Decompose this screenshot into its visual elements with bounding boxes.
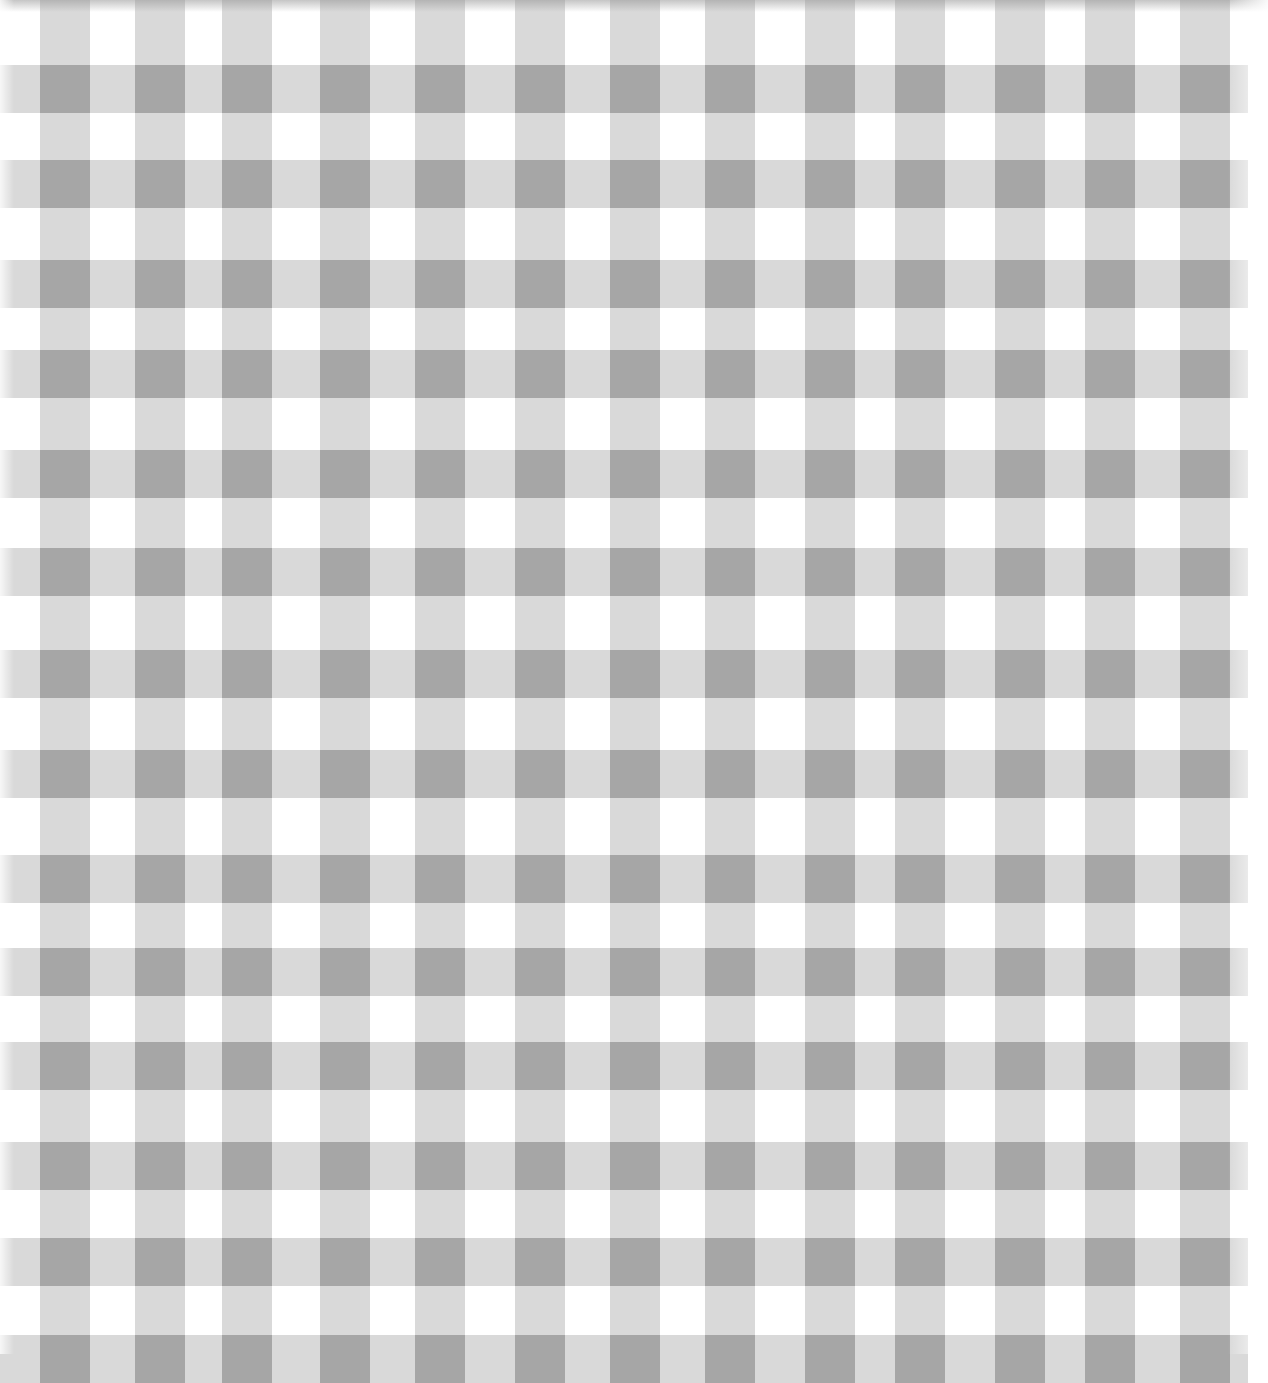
stripe-crossing [705, 650, 755, 698]
top-edge-shadow [0, 0, 1268, 12]
stripe-crossing [320, 260, 370, 308]
stripe-crossing [135, 1238, 185, 1286]
stripe-crossing [40, 948, 90, 996]
stripe-crossing [222, 1335, 272, 1383]
stripe-crossing [1085, 1142, 1135, 1190]
stripe-crossing [135, 450, 185, 498]
stripe-crossing [415, 450, 465, 498]
stripe-crossing [415, 750, 465, 798]
stripe-crossing [1085, 1042, 1135, 1090]
stripe-crossing [1085, 65, 1135, 113]
stripe-crossing [40, 855, 90, 903]
stripe-crossing [610, 750, 660, 798]
stripe-crossing [995, 1042, 1045, 1090]
stripe-crossing [995, 855, 1045, 903]
stripe-crossing [895, 1142, 945, 1190]
stripe-crossing [515, 855, 565, 903]
stripe-crossing [222, 1238, 272, 1286]
stripe-crossing [135, 260, 185, 308]
stripe-crossing [40, 65, 90, 113]
stripe-crossing [805, 1042, 855, 1090]
stripe-crossing [895, 450, 945, 498]
stripe-crossing [895, 65, 945, 113]
stripe-crossing [40, 160, 90, 208]
stripe-crossing [610, 1042, 660, 1090]
stripe-crossing [805, 855, 855, 903]
stripe-crossing [135, 750, 185, 798]
stripe-crossing [610, 650, 660, 698]
stripe-crossing [805, 1238, 855, 1286]
stripe-crossing [415, 65, 465, 113]
stripe-crossing [610, 855, 660, 903]
stripe-crossing [995, 650, 1045, 698]
stripe-crossing [995, 260, 1045, 308]
stripe-crossing [515, 1238, 565, 1286]
stripe-crossing [515, 350, 565, 398]
stripe-crossing [995, 350, 1045, 398]
stripe-crossing [222, 160, 272, 208]
stripe-crossing [1085, 1238, 1135, 1286]
stripe-crossing [995, 450, 1045, 498]
stripe-crossing [610, 948, 660, 996]
stripe-crossing [40, 1142, 90, 1190]
stripe-crossing [705, 1335, 755, 1383]
stripe-crossing [895, 160, 945, 208]
stripe-crossing [222, 948, 272, 996]
stripe-crossing [610, 548, 660, 596]
stripe-crossing [515, 1335, 565, 1383]
stripe-crossing [222, 65, 272, 113]
stripe-crossing [515, 1042, 565, 1090]
stripe-crossing [320, 160, 370, 208]
stripe-crossing [320, 750, 370, 798]
stripe-crossing [1180, 750, 1230, 798]
stripe-crossing [1085, 855, 1135, 903]
stripe-crossing [415, 350, 465, 398]
stripe-crossing [515, 948, 565, 996]
stripe-crossing [222, 260, 272, 308]
stripe-crossing [895, 548, 945, 596]
stripe-crossing [895, 650, 945, 698]
stripe-crossing [320, 350, 370, 398]
stripe-crossing [805, 650, 855, 698]
stripe-crossing [222, 1142, 272, 1190]
stripe-crossing [515, 65, 565, 113]
stripe-crossing [1180, 1238, 1230, 1286]
stripe-crossing [610, 1142, 660, 1190]
stripe-crossing [320, 450, 370, 498]
stripe-crossing [222, 548, 272, 596]
stripe-crossing [40, 750, 90, 798]
stripe-crossing [805, 65, 855, 113]
stripe-crossing [135, 1142, 185, 1190]
stripe-crossing [705, 750, 755, 798]
stripe-crossing [135, 855, 185, 903]
stripe-crossing [40, 1042, 90, 1090]
stripe-crossing [222, 855, 272, 903]
stripe-crossing [1085, 750, 1135, 798]
stripe-crossing [320, 65, 370, 113]
stripe-crossing [805, 548, 855, 596]
right-edge-fade [1228, 0, 1268, 1354]
stripe-crossing [1180, 160, 1230, 208]
stripe-crossing [705, 65, 755, 113]
stripe-crossing [40, 450, 90, 498]
stripe-crossing [805, 350, 855, 398]
stripe-crossing [895, 948, 945, 996]
stripe-crossing [135, 1335, 185, 1383]
stripe-crossing [320, 855, 370, 903]
stripe-crossing [1085, 948, 1135, 996]
stripe-crossing [320, 1042, 370, 1090]
stripe-crossing [320, 1142, 370, 1190]
stripe-crossing [1180, 1042, 1230, 1090]
stripe-crossing [995, 1238, 1045, 1286]
stripe-crossing [705, 350, 755, 398]
stripe-crossing [40, 1335, 90, 1383]
stripe-crossing [415, 1238, 465, 1286]
stripe-crossing [320, 1335, 370, 1383]
stripe-crossing [40, 260, 90, 308]
stripe-crossing [705, 948, 755, 996]
stripe-crossing [805, 160, 855, 208]
stripe-crossing [1180, 1335, 1230, 1383]
left-edge-fade [0, 0, 14, 1354]
stripe-crossing [895, 1335, 945, 1383]
stripe-crossing [320, 948, 370, 996]
